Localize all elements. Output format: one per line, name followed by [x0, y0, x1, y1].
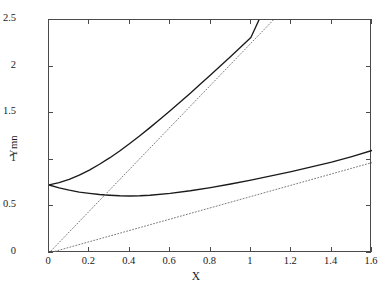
y-tick-mark — [366, 66, 371, 67]
x-tick-mark — [331, 247, 332, 252]
x-axis-title: X — [0, 270, 392, 282]
figure: 00.511.522.5 00.20.40.60.811.21.41.6 Ymn… — [0, 0, 392, 294]
series-lower-solid-curve — [49, 150, 372, 195]
y-tick-mark — [48, 205, 53, 206]
x-tick-mark — [169, 19, 170, 24]
x-tick-mark — [210, 19, 211, 24]
y-tick-mark — [366, 159, 371, 160]
y-tick-mark — [48, 252, 53, 253]
y-tick-mark — [48, 112, 53, 113]
chart-canvas — [49, 20, 372, 253]
x-tick-label: 1.2 — [270, 255, 310, 266]
x-tick-mark — [48, 19, 49, 24]
x-tick-mark — [250, 19, 251, 24]
x-tick-label: 0.8 — [190, 255, 230, 266]
x-tick-mark — [210, 247, 211, 252]
y-axis-title: Ymn — [6, 116, 20, 176]
x-tick-mark — [290, 19, 291, 24]
x-tick-label: 0 — [28, 255, 68, 266]
x-tick-label: 0.4 — [109, 255, 149, 266]
y-tick-mark — [366, 252, 371, 253]
y-tick-label: 1.5 — [0, 106, 16, 116]
x-tick-mark — [48, 247, 49, 252]
x-tick-label: 0.6 — [149, 255, 189, 266]
y-tick-mark — [366, 205, 371, 206]
series-layer — [49, 20, 372, 253]
x-tick-mark — [129, 19, 130, 24]
y-tick-label: 0 — [0, 246, 16, 256]
x-tick-mark — [129, 247, 130, 252]
x-tick-mark — [290, 247, 291, 252]
x-tick-mark — [169, 247, 170, 252]
x-tick-label: 1 — [230, 255, 270, 266]
y-tick-mark — [366, 112, 371, 113]
y-tick-mark — [48, 66, 53, 67]
x-tick-label: 1.6 — [351, 255, 391, 266]
series-shallow-dotted-line — [49, 163, 372, 253]
series-upper-solid-curve — [49, 20, 259, 185]
x-tick-mark — [371, 247, 372, 252]
x-tick-mark — [88, 247, 89, 252]
x-tick-mark — [250, 247, 251, 252]
series-steep-dotted-line — [49, 20, 273, 253]
y-tick-label: 2 — [0, 60, 16, 70]
y-tick-label: 0.5 — [0, 199, 16, 209]
y-tick-label: 2.5 — [0, 13, 16, 23]
x-tick-mark — [371, 19, 372, 24]
x-tick-label: 1.4 — [311, 255, 351, 266]
y-tick-mark — [48, 159, 53, 160]
x-tick-mark — [331, 19, 332, 24]
x-tick-label: 0.2 — [68, 255, 108, 266]
plot-area — [48, 19, 371, 252]
x-tick-mark — [88, 19, 89, 24]
